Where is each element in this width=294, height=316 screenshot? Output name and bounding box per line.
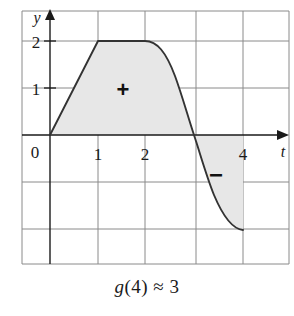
t-axis-label: t xyxy=(281,143,286,160)
caption-relation: ≈ xyxy=(153,276,164,297)
x-tick-label-0: 0 xyxy=(31,143,40,162)
y-tick-label-2: 2 xyxy=(32,33,41,52)
x-tick-label-1: 1 xyxy=(94,145,103,164)
integral-area-figure: 2 1 0 1 2 4 y t + − xyxy=(0,0,294,316)
positive-region-label: + xyxy=(117,77,130,102)
figure-caption: g(4) ≈ 3 xyxy=(0,276,294,298)
x-tick-label-2: 2 xyxy=(141,145,150,164)
caption-argument: (4) xyxy=(124,276,148,297)
y-axis-label: y xyxy=(31,9,41,27)
caption-value: 3 xyxy=(170,276,180,297)
x-tick-label-4: 4 xyxy=(239,145,248,164)
caption-function-name: g xyxy=(114,276,124,297)
y-tick-label-1: 1 xyxy=(32,80,41,99)
negative-region-label: − xyxy=(209,161,223,188)
